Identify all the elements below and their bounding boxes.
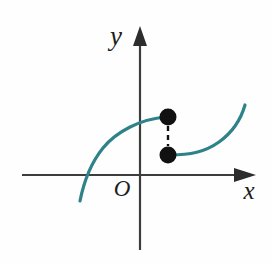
x-axis-label: x	[242, 177, 254, 204]
y-axis-label: y	[107, 21, 122, 51]
upper-endpoint-dot	[160, 109, 177, 126]
y-axis-arrowhead	[133, 26, 147, 46]
figure-canvas: y x O	[0, 0, 272, 264]
lower-endpoint-dot	[160, 147, 177, 164]
origin-label: O	[114, 176, 131, 201]
curve-right-branch	[170, 105, 245, 155]
graph-svg: y x O	[0, 0, 272, 264]
axes-group	[22, 26, 256, 250]
